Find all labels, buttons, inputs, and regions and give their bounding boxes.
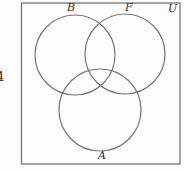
circle-label-top-left: B [67, 2, 75, 13]
problem-number: 4 [0, 70, 4, 83]
universal-set-box [22, 3, 181, 164]
circle-label-top-right: F [125, 2, 133, 13]
circle-label-bottom: A [98, 150, 106, 161]
venn-diagram-figure: B F U A 4 [0, 0, 185, 172]
venn-circle-top-right [85, 14, 165, 94]
venn-circle-top-left [35, 15, 115, 95]
universal-set-label: U [168, 3, 177, 14]
venn-diagram-canvas [0, 0, 185, 172]
venn-circle-bottom [59, 69, 141, 151]
